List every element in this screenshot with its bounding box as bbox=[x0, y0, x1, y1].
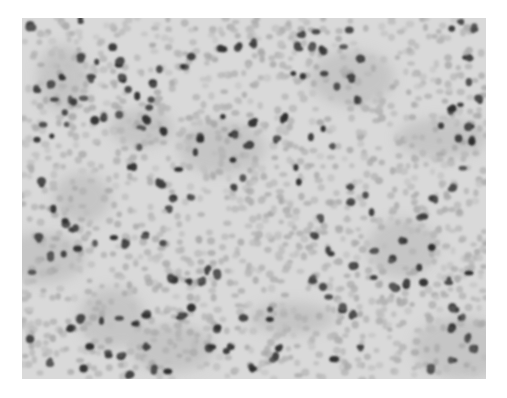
erythrocyte bbox=[411, 175, 418, 182]
erythrocyte bbox=[78, 168, 86, 174]
erythrocyte bbox=[454, 202, 461, 209]
erythrocyte bbox=[308, 248, 315, 255]
erythrocyte bbox=[35, 257, 42, 265]
erythrocyte bbox=[195, 236, 202, 243]
erythrocyte bbox=[412, 366, 417, 371]
erythrocyte bbox=[250, 180, 258, 185]
erythrocyte bbox=[127, 281, 132, 289]
erythrocyte bbox=[56, 293, 61, 300]
erythrocyte bbox=[364, 353, 371, 360]
erythrocyte bbox=[436, 307, 443, 313]
erythrocyte bbox=[152, 165, 159, 171]
erythrocyte bbox=[245, 301, 252, 308]
erythrocyte bbox=[203, 326, 211, 332]
erythrocyte bbox=[239, 258, 246, 263]
erythrocyte bbox=[471, 366, 477, 372]
leukocyte-nucleus-lobe bbox=[64, 122, 69, 127]
erythrocyte bbox=[50, 335, 56, 343]
erythrocyte bbox=[71, 86, 78, 93]
erythrocyte bbox=[394, 80, 400, 87]
erythrocyte bbox=[282, 94, 289, 100]
erythrocyte bbox=[439, 23, 446, 29]
erythrocyte bbox=[186, 164, 193, 171]
erythrocyte bbox=[106, 306, 112, 314]
leukocyte-nucleus-lobe bbox=[388, 259, 394, 264]
erythrocyte bbox=[365, 267, 372, 274]
erythrocyte bbox=[180, 256, 187, 262]
leukocyte-nucleus-lobe bbox=[121, 242, 128, 248]
erythrocyte bbox=[456, 286, 463, 293]
erythrocyte bbox=[251, 83, 258, 88]
erythrocyte bbox=[378, 103, 384, 109]
erythrocyte bbox=[264, 247, 272, 253]
erythrocyte bbox=[257, 102, 263, 109]
erythrocyte bbox=[187, 260, 194, 267]
erythrocyte bbox=[411, 72, 417, 77]
erythrocyte bbox=[203, 362, 209, 367]
erythrocyte bbox=[27, 174, 32, 180]
erythrocyte bbox=[77, 72, 84, 78]
erythrocyte bbox=[107, 62, 114, 69]
erythrocyte bbox=[332, 163, 338, 169]
erythrocyte bbox=[116, 212, 122, 218]
erythrocyte bbox=[41, 141, 49, 147]
erythrocyte bbox=[315, 352, 323, 358]
erythrocyte bbox=[343, 217, 351, 222]
leukocyte-nucleus-lobe bbox=[48, 358, 53, 366]
erythrocyte bbox=[231, 293, 238, 298]
erythrocyte bbox=[169, 85, 176, 92]
erythrocyte bbox=[428, 301, 436, 309]
erythrocyte bbox=[203, 174, 210, 182]
leukocyte bbox=[50, 205, 56, 213]
erythrocyte bbox=[29, 343, 35, 350]
leukocyte-nucleus-lobe bbox=[118, 353, 125, 358]
erythrocyte bbox=[380, 56, 387, 63]
erythrocyte bbox=[152, 257, 160, 264]
erythrocyte bbox=[44, 333, 52, 339]
leukocyte-nucleus-lobe bbox=[391, 286, 399, 292]
leukocyte-nucleus-lobe bbox=[267, 307, 273, 313]
erythrocyte bbox=[113, 173, 119, 180]
erythrocyte bbox=[320, 26, 327, 32]
erythrocyte bbox=[219, 244, 226, 250]
erythrocyte bbox=[70, 72, 78, 78]
leukocyte bbox=[163, 368, 172, 374]
erythrocyte bbox=[128, 157, 136, 162]
erythrocyte bbox=[400, 320, 407, 326]
leukocyte bbox=[90, 116, 99, 125]
erythrocyte bbox=[431, 258, 437, 264]
blood-smear-field bbox=[22, 18, 486, 379]
erythrocyte bbox=[35, 319, 43, 327]
erythrocyte bbox=[430, 169, 435, 176]
erythrocyte bbox=[396, 140, 403, 146]
erythrocyte bbox=[279, 61, 286, 68]
erythrocyte bbox=[392, 186, 397, 192]
erythrocyte bbox=[476, 107, 482, 112]
erythrocyte bbox=[100, 55, 108, 62]
erythrocyte bbox=[91, 292, 97, 297]
erythrocyte bbox=[356, 129, 363, 136]
erythrocyte bbox=[206, 317, 214, 324]
erythrocyte bbox=[386, 322, 392, 327]
erythrocyte bbox=[335, 227, 343, 233]
erythrocyte bbox=[67, 203, 73, 208]
leukocyte-nucleus-lobe bbox=[419, 279, 425, 285]
erythrocyte bbox=[406, 21, 411, 28]
leukocyte-nucleus-lobe bbox=[459, 19, 465, 25]
erythrocyte bbox=[42, 187, 48, 194]
erythrocyte bbox=[174, 50, 181, 57]
erythrocyte bbox=[229, 24, 236, 30]
erythrocyte bbox=[180, 162, 187, 168]
erythrocyte bbox=[472, 78, 479, 83]
leukocyte-nucleus-lobe bbox=[250, 366, 255, 372]
erythrocyte bbox=[344, 363, 352, 370]
erythrocyte bbox=[460, 156, 466, 162]
erythrocyte bbox=[371, 173, 379, 180]
erythrocyte bbox=[64, 346, 70, 351]
erythrocyte bbox=[377, 263, 384, 270]
erythrocyte bbox=[27, 307, 34, 312]
erythrocyte bbox=[133, 364, 139, 370]
erythrocyte bbox=[215, 135, 222, 142]
leukocyte-nucleus-lobe bbox=[461, 314, 466, 321]
erythrocyte bbox=[433, 295, 440, 300]
